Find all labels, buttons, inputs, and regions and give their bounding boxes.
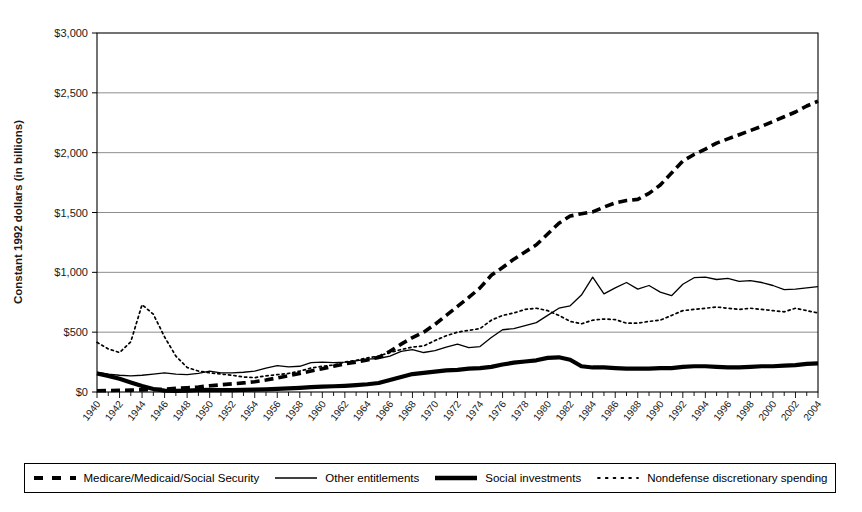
legend-label-social-investments: Social investments: [485, 472, 581, 484]
x-tick-label: 1948: [170, 398, 193, 423]
x-tick-label: 1982: [553, 398, 576, 423]
x-tick-label: 1940: [80, 398, 103, 423]
legend-item-social-investments: Social investments: [434, 472, 581, 484]
x-tick-label: 1994: [689, 398, 712, 423]
legend-item-medicare: Medicare/Medicaid/Social Security: [33, 472, 260, 484]
y-tick-label: $1,000: [54, 266, 88, 278]
x-tick-label: 1956: [260, 398, 283, 423]
chart-figure: $0$500$1,000$1,500$2,000$2,500$3,000 194…: [0, 0, 862, 512]
y-axis-ticks: [92, 33, 97, 392]
thin-solid-swatch: [274, 472, 318, 484]
legend-item-nondefense: Nondefense discretionary spending: [596, 472, 827, 484]
legend-label-medicare: Medicare/Medicaid/Social Security: [84, 472, 260, 484]
x-tick-label: 1964: [351, 398, 374, 423]
y-tick-label: $0: [76, 386, 88, 398]
x-tick-label: 1944: [125, 398, 148, 423]
x-tick-label: 1954: [238, 398, 261, 423]
series-line-social-investments: [97, 357, 818, 391]
x-axis-tick-labels: 1940194219441946194819501952195419561958…: [80, 398, 824, 423]
y-tick-label: $2,000: [54, 147, 88, 159]
thick-dashed-swatch: [33, 472, 77, 484]
x-tick-label: 1986: [598, 398, 621, 423]
x-tick-label: 1996: [711, 398, 734, 423]
x-tick-label: 1976: [486, 398, 509, 423]
gridlines: [97, 93, 818, 332]
legend-label-nondefense: Nondefense discretionary spending: [647, 472, 827, 484]
x-tick-label: 1968: [396, 398, 419, 423]
legend-item-other-entitlements: Other entitlements: [274, 472, 419, 484]
series-line-medicare-medicaid-social-security: [97, 101, 818, 391]
x-tick-label: 1942: [103, 398, 126, 423]
x-tick-label: 1946: [148, 398, 171, 423]
y-axis-tick-labels: $0$500$1,000$1,500$2,000$2,500$3,000: [54, 27, 88, 398]
y-tick-label: $1,500: [54, 207, 88, 219]
x-tick-label: 1952: [215, 398, 238, 423]
x-tick-label: 2004: [801, 398, 824, 423]
x-tick-label: 1974: [463, 398, 486, 423]
dotted-swatch: [596, 472, 640, 484]
chart-legend: Medicare/Medicaid/Social Security Other …: [24, 463, 836, 493]
x-axis-ticks: [97, 392, 818, 398]
x-tick-label: 1990: [643, 398, 666, 423]
x-tick-label: 2002: [779, 398, 802, 423]
x-tick-label: 1988: [621, 398, 644, 423]
legend-label-other-entitlements: Other entitlements: [325, 472, 419, 484]
x-tick-label: 1998: [734, 398, 757, 423]
x-tick-label: 1992: [666, 398, 689, 423]
x-tick-label: 1950: [193, 398, 216, 423]
x-tick-label: 1960: [306, 398, 329, 423]
x-tick-label: 1962: [328, 398, 351, 423]
x-tick-label: 1978: [508, 398, 531, 423]
thick-solid-swatch: [434, 472, 478, 484]
x-tick-label: 1970: [418, 398, 441, 423]
x-tick-label: 1958: [283, 398, 306, 423]
y-axis-title: Constant 1992 dollars (in billions): [12, 120, 24, 304]
x-tick-label: 1966: [373, 398, 396, 423]
y-tick-label: $500: [64, 326, 88, 338]
y-tick-label: $2,500: [54, 87, 88, 99]
spending-line-chart: $0$500$1,000$1,500$2,000$2,500$3,000 194…: [0, 0, 862, 462]
y-tick-label: $3,000: [54, 27, 88, 39]
x-tick-label: 1984: [576, 398, 599, 423]
x-tick-label: 2000: [756, 398, 779, 423]
series-lines: [97, 101, 818, 391]
x-tick-label: 1972: [441, 398, 464, 423]
x-tick-label: 1980: [531, 398, 554, 423]
series-line-other-entitlements: [97, 277, 818, 376]
